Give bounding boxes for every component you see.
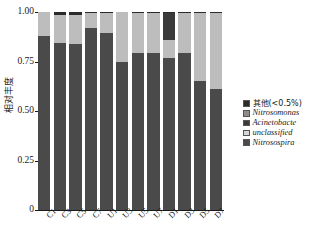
bar-segment	[147, 53, 159, 210]
bar-d1[interactable]	[163, 12, 175, 210]
bar-c5[interactable]	[69, 12, 81, 210]
bar-segment	[147, 13, 159, 53]
bar-d7[interactable]	[210, 12, 222, 210]
bar-segment	[69, 15, 81, 44]
y-axis-ticks: 00.250.500.751.00	[0, 0, 34, 243]
bar-segment	[210, 89, 222, 210]
bar-segment	[38, 36, 50, 210]
legend-label: 其他(<0.5%)	[253, 100, 302, 108]
bar-segment	[178, 13, 190, 53]
bar-segment	[38, 12, 50, 36]
x-axis-tick-labels: C1C3C5C7U1U3U5U7D1D3D5D7	[38, 210, 222, 243]
bar-segment	[163, 13, 175, 40]
legend-label: Nitrosospira	[253, 139, 295, 147]
bar-u5[interactable]	[132, 12, 144, 210]
legend-item[interactable]: 其他(<0.5%)	[243, 99, 327, 108]
legend-swatch-icon	[243, 100, 250, 107]
bar-segment	[54, 15, 66, 43]
bar-u7[interactable]	[147, 12, 159, 210]
bar-segment	[69, 44, 81, 210]
bar-segment	[194, 81, 206, 210]
legend-item[interactable]: Acinetobacte	[243, 119, 327, 128]
legend-label: Nitrosomonas	[253, 109, 300, 117]
legend-swatch-icon	[243, 120, 250, 127]
bar-segment	[85, 13, 97, 28]
bar-segment	[132, 53, 144, 210]
bar-c7[interactable]	[85, 12, 97, 210]
bar-segment	[194, 13, 206, 81]
legend-swatch-icon	[243, 110, 250, 117]
bar-segment	[100, 33, 112, 210]
legend-item[interactable]: Nitrosomonas	[243, 109, 327, 118]
y-tick-label: 0.25	[17, 156, 34, 166]
y-tick-label: 0	[29, 205, 34, 215]
bar-c1[interactable]	[38, 12, 50, 210]
stacked-bar-chart-figure: 相对丰度 00.250.500.751.00 C1C3C5C7U1U3U5U7D…	[0, 0, 327, 243]
bar-d3[interactable]	[178, 12, 190, 210]
y-tick-label: 1.00	[17, 7, 34, 17]
bar-segment	[100, 13, 112, 33]
bar-u1[interactable]	[100, 12, 112, 210]
bar-segment	[132, 13, 144, 53]
legend-item[interactable]: unclassified	[243, 128, 327, 137]
legend-label: unclassified	[253, 129, 293, 137]
bar-segment	[116, 12, 128, 61]
chart-legend: 其他(<0.5%)NitrosomonasAcinetobacteunclass…	[243, 99, 327, 148]
legend-swatch-icon	[243, 139, 250, 146]
bar-segment	[210, 13, 222, 89]
y-tick-label: 0.50	[17, 106, 34, 116]
bar-d5[interactable]	[194, 12, 206, 210]
bar-segment	[85, 28, 97, 210]
plot-area	[38, 12, 222, 210]
bar-c3[interactable]	[54, 12, 66, 210]
legend-label: Acinetobacte	[253, 119, 297, 127]
legend-swatch-icon	[243, 130, 250, 137]
bar-segment	[163, 58, 175, 210]
bar-segment	[178, 53, 190, 210]
y-tick-label: 0.75	[17, 57, 34, 67]
bar-u3[interactable]	[116, 12, 128, 210]
bar-segment	[163, 40, 175, 58]
bar-segment	[54, 43, 66, 210]
bar-segment	[116, 62, 128, 211]
legend-item[interactable]: Nitrosospira	[243, 138, 327, 147]
